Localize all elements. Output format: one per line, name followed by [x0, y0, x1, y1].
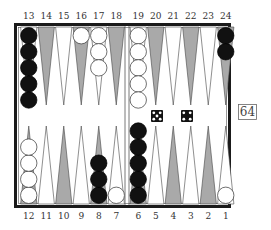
die-pip [182, 118, 185, 121]
point-label-8: 8 [96, 211, 102, 221]
white-checker[interactable] [21, 139, 37, 155]
doubling-cube[interactable]: 64 [239, 105, 257, 120]
point-label-9: 9 [78, 211, 84, 221]
black-checker[interactable] [21, 44, 37, 60]
point-label-7: 7 [113, 211, 119, 221]
point-label-4: 4 [170, 211, 176, 221]
black-checker[interactable] [130, 139, 146, 155]
white-checker[interactable] [21, 187, 37, 203]
die-pip [159, 111, 162, 114]
white-checker[interactable] [91, 44, 107, 60]
point-label-10: 10 [58, 211, 70, 221]
white-checker[interactable] [218, 187, 234, 203]
white-checker[interactable] [91, 28, 107, 44]
point-label-5: 5 [153, 211, 159, 221]
point-label-23: 23 [203, 11, 215, 21]
point-label-24: 24 [220, 11, 232, 21]
point-label-17: 17 [93, 11, 105, 21]
point-label-19: 19 [133, 11, 145, 21]
white-checker[interactable] [73, 28, 89, 44]
black-checker[interactable] [218, 44, 234, 60]
black-checker[interactable] [130, 171, 146, 187]
black-checker[interactable] [91, 187, 107, 203]
point-label-20: 20 [150, 11, 162, 21]
black-checker[interactable] [21, 60, 37, 76]
white-checker[interactable] [130, 76, 146, 92]
point-label-2: 2 [205, 211, 211, 221]
die-pip [152, 118, 155, 121]
point-label-18: 18 [111, 11, 123, 21]
white-checker[interactable] [130, 92, 146, 108]
white-checker[interactable] [130, 44, 146, 60]
white-checker[interactable] [130, 28, 146, 44]
point-label-13: 13 [23, 11, 35, 21]
die-pip [156, 115, 159, 118]
white-checker[interactable] [21, 171, 37, 187]
black-checker[interactable] [21, 28, 37, 44]
die-1[interactable] [151, 110, 163, 122]
point-label-6: 6 [135, 211, 141, 221]
die-pip [159, 118, 162, 121]
black-checker[interactable] [91, 171, 107, 187]
die-pip [152, 111, 155, 114]
point-label-3: 3 [188, 211, 194, 221]
white-checker[interactable] [21, 155, 37, 171]
point-label-22: 22 [185, 11, 196, 21]
backgammon-board: 131415161718192021222324121110987654321 … [0, 0, 271, 230]
white-checker[interactable] [130, 60, 146, 76]
die-pip [182, 111, 185, 114]
black-checker[interactable] [21, 76, 37, 92]
die-2[interactable] [181, 110, 193, 122]
die-pip [189, 118, 192, 121]
point-label-16: 16 [76, 11, 88, 21]
white-checker[interactable] [91, 60, 107, 76]
black-checker[interactable] [218, 28, 234, 44]
point-label-11: 11 [41, 211, 52, 221]
black-checker[interactable] [91, 155, 107, 171]
black-checker[interactable] [130, 155, 146, 171]
black-checker[interactable] [21, 92, 37, 108]
point-label-1: 1 [223, 211, 229, 221]
point-label-14: 14 [41, 11, 53, 21]
point-label-21: 21 [168, 11, 179, 21]
point-label-12: 12 [23, 211, 34, 221]
die-pip [189, 111, 192, 114]
black-checker[interactable] [130, 187, 146, 203]
doubling-cube-value: 64 [240, 105, 256, 119]
black-checker[interactable] [130, 123, 146, 139]
white-checker[interactable] [108, 187, 124, 203]
point-label-15: 15 [58, 11, 70, 21]
